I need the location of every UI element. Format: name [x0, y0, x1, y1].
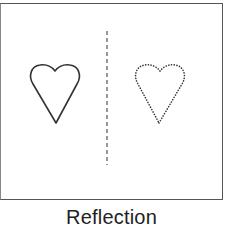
reflection-diagram — [0, 0, 233, 227]
original-heart-icon — [31, 65, 80, 123]
figure-caption: Reflection — [0, 206, 223, 227]
reflected-heart-icon — [136, 65, 185, 123]
